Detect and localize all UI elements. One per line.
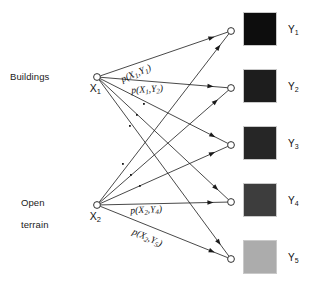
arrowhead-x1-y5 — [215, 239, 221, 245]
caption-x1y2: p(X1,Y2) — [121, 73, 164, 108]
patch-label-symbol: Y — [288, 252, 295, 263]
edge-x2-y3 — [100, 146, 228, 203]
node-symbol-x2: X — [90, 210, 97, 222]
patch-y2 — [244, 70, 276, 102]
patch-label-symbol: Y — [288, 138, 295, 149]
arrowhead-x1-y3 — [209, 132, 216, 137]
open-terrain-label: Open terrain — [10, 186, 49, 241]
node-circle-y2[interactable] — [228, 85, 235, 92]
arrowhead-x1-y2 — [207, 84, 213, 89]
ellipsis-dot-upper-3 — [129, 125, 131, 127]
patch-label-y5: Y5 — [288, 252, 299, 264]
arrowhead-x2-y4 — [207, 200, 213, 205]
ellipsis-dot-lower-1 — [122, 163, 124, 165]
patch-label-symbol: Y — [288, 195, 295, 206]
open-terrain-line1: Open — [21, 197, 45, 208]
node-circle-group — [94, 28, 235, 263]
node-circle-y3[interactable] — [228, 142, 235, 149]
arrowhead-x2-y1 — [215, 45, 221, 51]
node-circle-y4[interactable] — [228, 199, 235, 206]
ellipsis-dot-upper-2 — [136, 114, 138, 116]
patch-label-y3: Y3 — [288, 138, 299, 150]
node-circle-y5[interactable] — [228, 256, 235, 263]
node-label-x1: X1 — [78, 70, 101, 108]
caption-x1y2-head: p(X — [131, 84, 145, 95]
node-label-x2: X2 — [78, 198, 101, 236]
patch-y5 — [244, 241, 276, 273]
patch-label-subscript: 2 — [295, 86, 299, 93]
node-symbol-x1: X — [90, 82, 97, 94]
arrowhead-x2-y3 — [209, 152, 216, 157]
edge-x2-y1 — [99, 34, 229, 203]
patch-y1 — [244, 13, 276, 45]
patch-label-subscript: 1 — [295, 29, 299, 36]
patch-label-y4: Y4 — [288, 195, 299, 207]
buildings-label: Buildings — [10, 71, 49, 82]
patch-label-y1: Y1 — [288, 24, 299, 36]
patch-label-symbol: Y — [288, 24, 295, 35]
arrowhead-group — [207, 36, 220, 252]
patch-y4 — [244, 184, 276, 216]
patch-label-subscript: 3 — [295, 143, 299, 150]
node-circle-y1[interactable] — [228, 28, 235, 35]
patch-y3 — [244, 127, 276, 159]
figure-root: Buildings Open terrain X1 X2 p(X1,Y1) p(… — [0, 0, 316, 290]
ellipsis-dot-lower-2 — [130, 174, 132, 176]
node-subscript-x1: 1 — [97, 87, 101, 96]
patch-label-symbol: Y — [288, 81, 295, 92]
caption-x1y2-close: ) — [159, 83, 163, 93]
patch-label-subscript: 4 — [295, 200, 299, 207]
node-subscript-x2: 2 — [97, 215, 101, 224]
patch-label-y2: Y2 — [288, 81, 299, 93]
arrowhead-x1-y1 — [208, 36, 215, 40]
caption-x2y4-close: ) — [159, 204, 163, 214]
ellipsis-dot-lower-3 — [139, 185, 141, 187]
patch-label-subscript: 5 — [295, 257, 299, 264]
open-terrain-line2: terrain — [21, 219, 49, 230]
arrowhead-x2-y5 — [208, 248, 215, 252]
